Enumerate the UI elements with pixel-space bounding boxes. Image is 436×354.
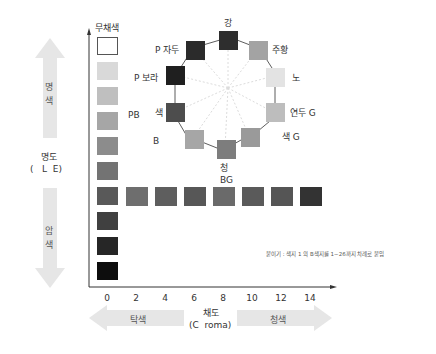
hue-label-blue: B: [153, 136, 159, 146]
hue-swatch-orange: [249, 41, 268, 60]
hue-label-orange: 주황: [272, 45, 288, 55]
chroma-tick-0: 0: [97, 293, 117, 303]
hue-swatch-red: [219, 31, 238, 50]
chroma-tick-14: 14: [300, 293, 320, 303]
chroma-tick-12: 12: [271, 293, 291, 303]
hue-swatch-yellow-green: [266, 103, 285, 122]
gray-swatch-7: [97, 212, 118, 230]
chroma-swatch-14: [300, 187, 322, 206]
gray-swatch-4: [97, 137, 118, 155]
achromatic-label: 무채색: [95, 23, 119, 33]
hue-swatch-purple: [166, 66, 185, 85]
hue-swatch-green: [241, 128, 260, 147]
gray-swatch-0: [97, 37, 118, 55]
chroma-swatch-10: [242, 187, 264, 206]
hue-label-purple: P 보라: [134, 73, 158, 83]
hue-label-red-purple: P 자두: [155, 45, 179, 55]
chroma-swatch-2: [126, 187, 148, 206]
chroma-swatch-8: [213, 187, 235, 206]
hue-label-blue-green-1: 청: [220, 163, 228, 173]
hue-label-purple-blue-code: PB: [128, 110, 140, 120]
instruction-note: 붙이기 : 색지 1 의 B색지를 1~26까지 차례로 붙임: [266, 250, 384, 258]
hue-swatch-yellow: [266, 68, 285, 87]
gray-swatch-9: [97, 262, 118, 280]
hue-swatch-blue-green: [217, 140, 236, 159]
hue-swatch-red-purple: [186, 41, 205, 60]
hue-label-green: 색 G: [282, 132, 300, 142]
gray-swatch-6: [97, 187, 118, 205]
chroma-axis-label: 채도: [203, 308, 219, 318]
hue-swatch-blue: [185, 130, 204, 149]
hue-label-yellow-green: 연두 G: [290, 108, 316, 118]
chroma-swatch-6: [184, 187, 206, 206]
hue-label-blue-green-2: BG: [220, 175, 233, 185]
dull-label: 탁색: [130, 313, 146, 326]
gray-swatch-2: [97, 87, 118, 105]
chroma-tick-8: 8: [213, 293, 233, 303]
chroma-tick-6: 6: [184, 293, 204, 303]
hue-label-red: 강: [224, 18, 232, 28]
vivid-label: 청색: [270, 313, 286, 326]
gray-swatch-3: [97, 112, 118, 130]
gray-swatch-5: [97, 162, 118, 180]
chroma-tick-2: 2: [126, 293, 146, 303]
chroma-swatch-12: [271, 187, 293, 206]
gray-swatch-8: [97, 237, 118, 255]
hue-label-purple-blue: 색: [155, 108, 163, 118]
chroma-axis-sublabel: (C roma): [189, 320, 231, 330]
chroma-tick-4: 4: [155, 293, 175, 303]
chroma-tick-10: 10: [242, 293, 262, 303]
chroma-swatch-4: [155, 187, 177, 206]
hue-label-yellow: 노: [292, 73, 300, 83]
gray-swatch-1: [97, 62, 118, 80]
hue-swatch-purple-blue: [166, 103, 185, 122]
